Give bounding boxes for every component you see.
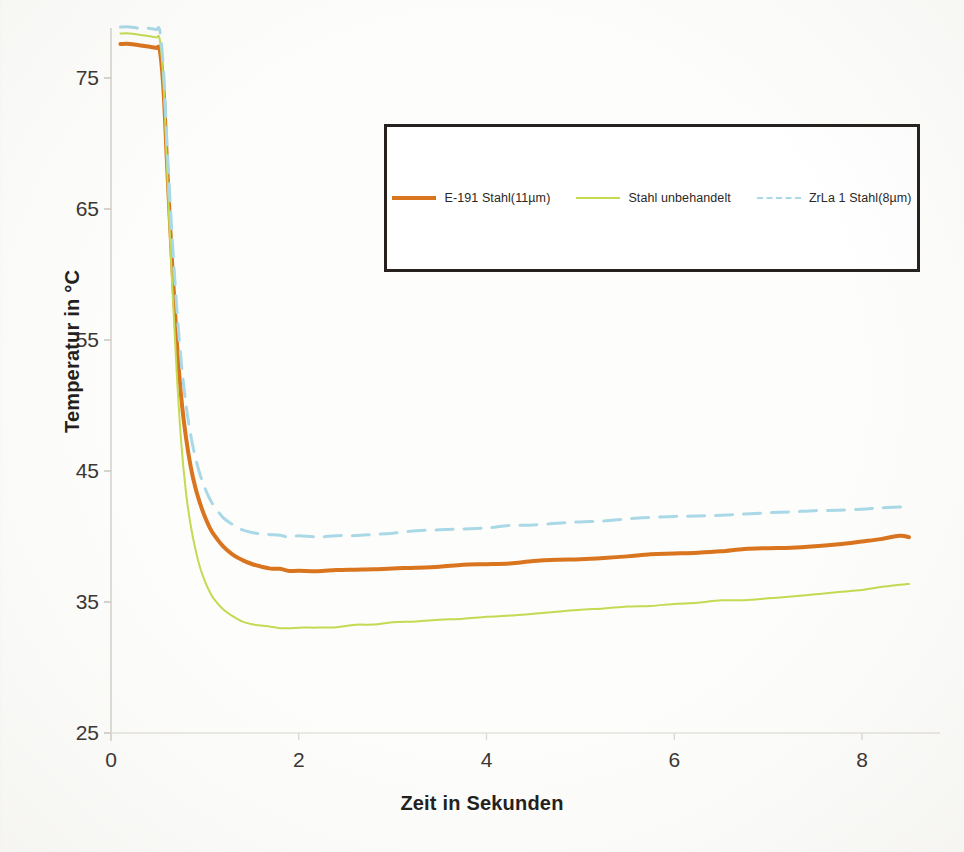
series-line-1 [120,44,909,571]
y-axis-title: Temperatur in °C [61,222,84,482]
x-tick-0: 0 [91,748,131,772]
x-tick-2: 2 [279,748,319,772]
x-tick-8: 8 [842,748,882,772]
y-tick-35: 35 [53,590,99,614]
x-axis-title: Zeit in Sekunden [0,792,964,815]
series-line-3 [120,27,909,537]
legend-label: ZrLa 1 Stahl(8µm) [809,191,912,205]
x-tick-4: 4 [467,748,507,772]
legend-item-2: Stahl unbehandelt [576,191,730,205]
y-tick-65: 65 [53,197,99,221]
legend-item-3: ZrLa 1 Stahl(8µm) [757,191,912,205]
legend-label: Stahl unbehandelt [628,191,730,205]
x-tick-6: 6 [654,748,694,772]
y-tick-75: 75 [53,66,99,90]
legend-items: E-191 Stahl(11µm)Stahl unbehandeltZrLa 1… [387,191,917,205]
legend-label: E-191 Stahl(11µm) [444,191,550,205]
y-tick-25: 25 [53,721,99,745]
series-line-2 [120,33,909,628]
chart-figure: 253545556575 02468 Temperatur in °C Zeit… [0,0,964,852]
legend-item-1: E-191 Stahl(11µm) [392,191,550,205]
legend: E-191 Stahl(11µm)Stahl unbehandeltZrLa 1… [384,124,920,272]
